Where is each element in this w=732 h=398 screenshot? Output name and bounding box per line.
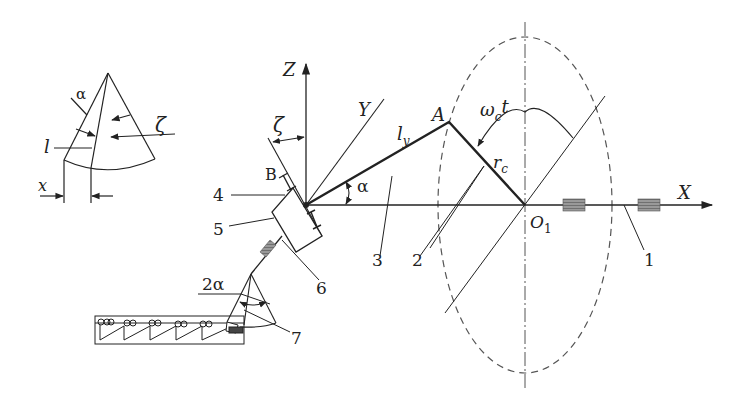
inset-cone-detail	[40, 73, 175, 203]
two-alpha-label: 2α	[202, 274, 225, 294]
inset-alpha-label: α	[76, 85, 86, 103]
y-axis-label: Y	[358, 99, 372, 120]
inset-zeta-label: ζ	[155, 113, 167, 137]
inset-l-label: l	[44, 136, 50, 157]
inset-x-label: x	[38, 176, 47, 195]
bearing-icon	[638, 199, 660, 211]
callout-1: 1	[644, 250, 655, 270]
point-a-label: A	[430, 104, 445, 125]
center-o1-label: O1	[530, 212, 552, 236]
zeta-dimension	[273, 137, 304, 142]
callout-2: 2	[412, 250, 423, 270]
z-axis-label: Z	[282, 59, 296, 80]
callout-6: 6	[316, 278, 327, 298]
saw-strip	[95, 316, 244, 344]
omega-t-label: ωct	[480, 96, 509, 124]
callout-7: 7	[291, 328, 302, 348]
shaft-bearing-icon	[260, 240, 276, 257]
alpha-label: α	[357, 176, 369, 196]
kinematic-diagram: α ζ l x X Z Y A ly rc ωct O1 α ζ B O	[0, 0, 732, 398]
point-b-label: B	[265, 165, 277, 184]
callout-4: 4	[213, 185, 224, 205]
callout-5: 5	[213, 219, 224, 239]
callout-3: 3	[372, 250, 383, 270]
alpha-arc	[346, 182, 349, 204]
cutting-cone	[227, 274, 276, 327]
link-ly-label: ly	[397, 123, 410, 148]
bearing-icon	[563, 199, 585, 211]
x-axis-label: X	[676, 182, 692, 203]
y-axis	[306, 99, 384, 205]
zeta-label: ζ	[273, 113, 285, 137]
origin-point	[303, 202, 309, 208]
